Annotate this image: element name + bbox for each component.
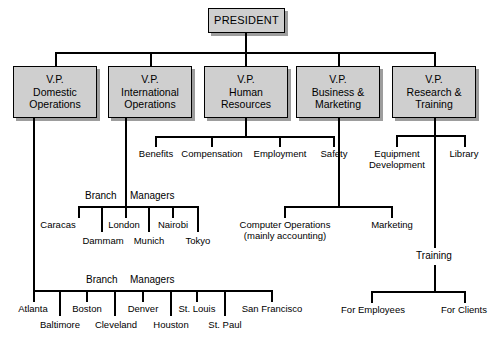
connector-drop-tokyo [197, 206, 199, 232]
node-vp-domestic-operations[interactable]: V.P. Domestic Operations [13, 66, 97, 118]
connector-domestic-bus [33, 290, 272, 292]
node-safety[interactable]: Safety [321, 149, 348, 160]
connector-training-bus [371, 291, 466, 293]
node-dammam[interactable]: Dammam [82, 236, 123, 247]
label-intl-branch: Branch [85, 190, 117, 202]
connector-business-bus [284, 206, 392, 208]
connector-research-bus [396, 135, 466, 137]
node-vp-human-resources[interactable]: V.P. Human Resources [204, 66, 288, 118]
connector-hr-bus [155, 136, 333, 138]
connector-hr-stem [245, 118, 247, 136]
connector-intl-bus [78, 206, 198, 208]
connector-drop-equipment-development [396, 135, 398, 147]
node-munich[interactable]: Munich [134, 236, 165, 247]
connector-drop-st-louis [196, 290, 198, 302]
connector-drop-vp-international [150, 52, 152, 66]
node-london[interactable]: London [108, 220, 140, 231]
node-for-employees[interactable]: For Employees [341, 305, 405, 316]
connector-drop-boston [86, 290, 88, 302]
node-baltimore[interactable]: Baltimore [40, 320, 80, 331]
node-president[interactable]: PRESIDENT [208, 8, 285, 33]
connector-drop-library [464, 135, 466, 147]
node-compensation[interactable]: Compensation [181, 149, 242, 160]
connector-international-stem [125, 118, 127, 212]
node-atlanta[interactable]: Atlanta [18, 304, 48, 315]
node-for-clients[interactable]: For Clients [441, 305, 487, 316]
connector-training-stem [434, 265, 436, 291]
node-marketing[interactable]: Marketing [371, 220, 413, 231]
node-cleveland[interactable]: Cleveland [95, 320, 137, 331]
connector-drop-for-clients [464, 291, 466, 303]
connector-drop-vp-research-training [434, 52, 436, 66]
connector-drop-vp-human-resources [245, 52, 247, 66]
node-st-paul[interactable]: St. Paul [208, 320, 241, 331]
connector-drop-computer-operations [284, 206, 286, 218]
connector-president-stem [245, 33, 247, 52]
node-computer-operations[interactable]: Computer Operations (mainly accounting) [240, 220, 331, 242]
node-library[interactable]: Library [449, 149, 478, 160]
connector-drop-atlanta [33, 290, 35, 302]
connector-research-to-training [434, 135, 436, 248]
connector-drop-munich [148, 206, 150, 232]
connector-drop-london [125, 206, 127, 218]
connector-drop-cleveland [114, 290, 116, 316]
connector-drop-caracas [78, 206, 80, 218]
connector-drop-benefits [155, 136, 157, 147]
connector-business-stem [338, 118, 340, 206]
connector-drop-employment [279, 136, 281, 147]
node-training[interactable]: Training [416, 250, 452, 262]
node-vp-business-marketing[interactable]: V.P. Business & Marketing [296, 66, 380, 118]
connector-domestic-stem [33, 118, 35, 290]
connector-drop-compensation [211, 136, 213, 147]
node-tokyo[interactable]: Tokyo [186, 236, 211, 247]
node-vp-research-training[interactable]: V.P. Research & Training [392, 66, 476, 118]
org-chart: PRESIDENT V.P. Domestic Operations V.P. … [0, 0, 488, 352]
node-houston[interactable]: Houston [153, 320, 188, 331]
connector-drop-baltimore [59, 290, 61, 316]
connector-drop-houston [170, 290, 172, 316]
node-caracas[interactable]: Caracas [40, 220, 75, 231]
connector-drop-vp-domestic [55, 52, 57, 66]
node-benefits[interactable]: Benefits [139, 149, 173, 160]
connector-drop-dammam [101, 206, 103, 232]
node-nairobi[interactable]: Nairobi [158, 220, 188, 231]
connector-drop-san-francisco [271, 290, 273, 302]
connector-research-stem [434, 118, 436, 135]
node-denver[interactable]: Denver [128, 304, 159, 315]
label-intl-managers: Managers [130, 190, 174, 202]
node-san-francisco[interactable]: San Francisco [242, 304, 303, 315]
connector-drop-marketing [391, 206, 393, 218]
connector-drop-nairobi [172, 206, 174, 218]
label-domestic-branch: Branch [86, 274, 118, 286]
label-domestic-managers: Managers [130, 274, 174, 286]
connector-drop-safety [333, 136, 335, 147]
node-equipment-development[interactable]: Equipment Development [369, 149, 425, 171]
connector-drop-for-employees [371, 291, 373, 303]
node-st-louis[interactable]: St. Louis [179, 304, 216, 315]
connector-drop-st-paul [224, 290, 226, 316]
node-vp-international-operations[interactable]: V.P. International Operations [108, 66, 192, 118]
connector-drop-denver [142, 290, 144, 302]
node-employment[interactable]: Employment [254, 149, 307, 160]
node-boston[interactable]: Boston [72, 304, 102, 315]
connector-drop-vp-business-marketing [338, 52, 340, 66]
